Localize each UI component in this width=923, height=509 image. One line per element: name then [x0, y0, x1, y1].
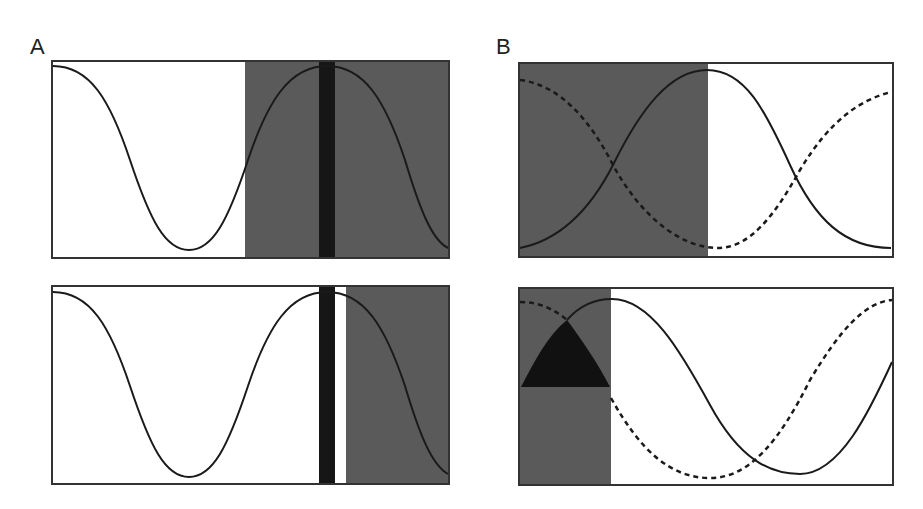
- panel-a-top-dark-bar: [319, 62, 335, 258]
- panel-a-bottom-dark-bar: [319, 287, 335, 484]
- panel-a-bottom-shaded-region: [346, 287, 449, 484]
- panel-b-top: [519, 63, 893, 257]
- diagram-canvas: [0, 0, 923, 509]
- panel-a-bottom: [52, 286, 449, 484]
- panel-a-top: [52, 61, 449, 258]
- panel-b-bottom: [519, 288, 893, 485]
- panel-a-top-shaded-region: [245, 62, 449, 258]
- panel-b-top-shaded-region: [520, 64, 708, 257]
